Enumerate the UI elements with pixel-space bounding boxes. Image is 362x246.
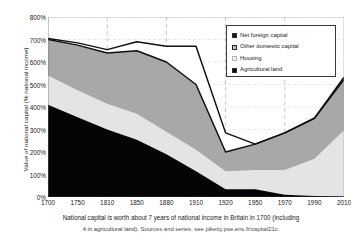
- chart-caption: National capital is worth about 7 years …: [0, 213, 362, 234]
- x-tick-1700: 1700: [41, 199, 55, 206]
- legend-swatch-net-foreign-capital: [232, 33, 237, 38]
- legend-label-net-foreign-capital: Net foreign capital: [240, 33, 287, 39]
- x-tick-2010: 2010: [337, 199, 351, 206]
- caption-line-2-text: 4 in agricultural land).: [83, 226, 141, 232]
- x-tick-1810: 1810: [100, 199, 114, 206]
- chart-figure: Value of national capital (% national in…: [0, 0, 362, 246]
- legend-item-net-foreign-capital: Net foreign capital: [232, 30, 331, 42]
- x-tick-1950: 1950: [248, 199, 262, 206]
- legend-item-housing: Housing: [232, 53, 331, 65]
- y-tick-100%: 100%: [18, 171, 46, 178]
- legend-item-other-domestic-capital: Other domestic capital: [232, 42, 331, 54]
- x-tick-1920: 1920: [218, 199, 232, 206]
- x-tick-1990: 1990: [307, 199, 321, 206]
- y-tick-700%: 700%: [18, 36, 46, 43]
- legend-swatch-housing: [232, 56, 237, 61]
- y-tick-500%: 500%: [18, 81, 46, 88]
- x-tick-1880: 1880: [159, 199, 173, 206]
- caption-line-1: National capital is worth about 7 years …: [0, 213, 362, 224]
- x-tick-1910: 1910: [189, 199, 203, 206]
- legend-label-housing: Housing: [240, 56, 262, 62]
- caption-source: Sources and series: see piketty.pse.ens.…: [141, 226, 280, 232]
- y-tick-300%: 300%: [18, 126, 46, 133]
- legend-swatch-agricultural-land: [232, 68, 237, 73]
- legend-item-agricultural-land: Agricultural land: [232, 65, 331, 77]
- x-tick-1850: 1850: [130, 199, 144, 206]
- y-axis-tick-labels: 0%100%200%300%400%500%600%700%800%: [14, 0, 46, 246]
- y-tick-600%: 600%: [18, 59, 46, 66]
- y-tick-800%: 800%: [18, 14, 46, 21]
- x-tick-1750: 1750: [70, 199, 84, 206]
- legend-label-agricultural-land: Agricultural land: [240, 67, 282, 73]
- y-tick-200%: 200%: [18, 149, 46, 156]
- legend-label-other-domestic-capital: Other domestic capital: [240, 44, 299, 50]
- chart-legend: Net foreign capital Other domestic capit…: [226, 25, 336, 77]
- legend-swatch-other-domestic-capital: [232, 45, 237, 50]
- x-tick-1970: 1970: [278, 199, 292, 206]
- caption-line-2: 4 in agricultural land). Sources and ser…: [0, 224, 362, 235]
- y-tick-400%: 400%: [18, 104, 46, 111]
- x-axis-tick-labels: 1700175018101850188019101920195019701990…: [48, 199, 344, 211]
